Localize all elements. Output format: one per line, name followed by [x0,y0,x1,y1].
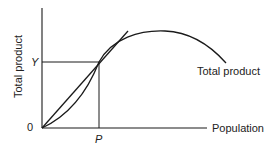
curve-label: Total product [197,65,260,77]
ray-from-origin [42,31,128,128]
origin-label: 0 [27,121,33,133]
total-product-curve [42,31,226,128]
x-tick-label: P [95,133,103,145]
x-axis-label: Population [212,122,264,134]
total-product-diagram: 0 Y P Population Total product Total pro… [0,0,273,147]
y-axis-label: Total product [12,35,24,98]
y-tick-label: Y [31,56,39,68]
